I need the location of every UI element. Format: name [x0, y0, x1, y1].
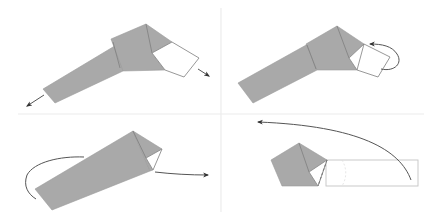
step-4-panel [258, 122, 418, 186]
step-3-panel [26, 131, 208, 210]
paper-strip [35, 131, 150, 210]
paper-strip [238, 44, 317, 103]
pull-right-arrow-icon [198, 69, 209, 76]
strip-outline [326, 160, 418, 186]
step-2-panel [238, 26, 399, 103]
paper-strip [43, 44, 123, 103]
step-1-panel [27, 24, 209, 106]
hidden-fold-hint [342, 160, 346, 186]
pull-right-arrow-icon [155, 172, 208, 175]
pull-left-arrow-icon [27, 95, 44, 106]
origami-diagram [0, 0, 442, 219]
